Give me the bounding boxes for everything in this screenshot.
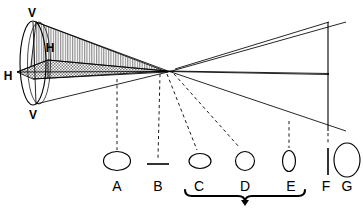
brace-tip-arrow	[241, 200, 249, 206]
section-label-d: D	[240, 178, 250, 194]
label-h-left: H	[4, 69, 13, 83]
figure-root: V V H H A B C D E F G	[0, 0, 363, 209]
label-v-bottom: V	[29, 108, 37, 122]
optics-diagram-svg: V V H H A B C D E F G	[0, 0, 363, 209]
leader-line-c	[167, 74, 197, 150]
label-v-top: V	[28, 6, 36, 20]
section-label-a: A	[112, 178, 122, 194]
leader-line-d	[174, 74, 240, 148]
label-h-inner: H	[46, 41, 55, 55]
cross-section-shapes	[104, 143, 361, 177]
section-shape-a	[104, 152, 131, 171]
section-label-f: F	[322, 178, 331, 194]
section-label-c: C	[194, 178, 204, 194]
section-shape-c	[189, 154, 211, 169]
section-label-e: E	[286, 178, 295, 194]
section-shape-d	[236, 152, 255, 171]
section-shape-g	[334, 143, 360, 177]
leader-line-b	[158, 74, 160, 158]
section-label-b: B	[153, 178, 162, 194]
section-shape-e	[283, 151, 296, 172]
leader-lines	[117, 74, 328, 158]
section-label-g: G	[342, 178, 353, 194]
